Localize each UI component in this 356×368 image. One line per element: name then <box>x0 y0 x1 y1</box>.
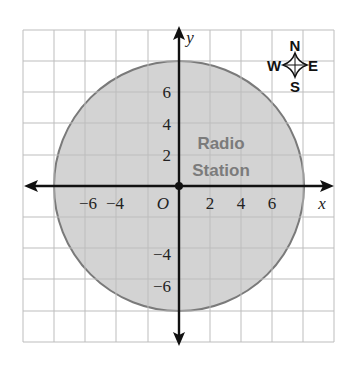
origin-label: O <box>157 194 169 213</box>
origin-point <box>175 182 183 190</box>
x-tick-neg6: −6 <box>79 194 97 213</box>
y-tick-2: 2 <box>163 146 172 165</box>
x-tick-neg4: −4 <box>106 194 125 213</box>
radio-label-line1: Radio <box>197 134 244 153</box>
compass-north: N <box>290 37 301 54</box>
y-tick-neg4: −4 <box>153 245 172 264</box>
x-tick-4: 4 <box>237 194 246 213</box>
x-tick-6: 6 <box>268 194 277 213</box>
y-axis-label: y <box>184 28 194 47</box>
y-tick-4: 4 <box>163 115 172 134</box>
compass-west: W <box>267 57 282 74</box>
radio-label-line2: Station <box>192 161 250 180</box>
compass-east: E <box>308 57 318 74</box>
x-axis-label: x <box>317 194 326 213</box>
coordinate-plane: −6 −4 O 2 4 6 6 4 2 −4 −6 x y Radio Stat… <box>0 0 356 368</box>
y-tick-neg6: −6 <box>153 277 171 296</box>
y-tick-6: 6 <box>163 83 172 102</box>
x-tick-2: 2 <box>206 194 215 213</box>
compass-south: S <box>290 78 300 95</box>
